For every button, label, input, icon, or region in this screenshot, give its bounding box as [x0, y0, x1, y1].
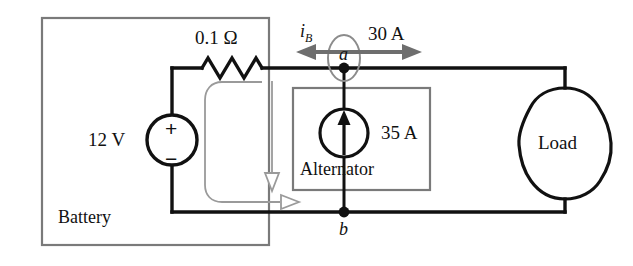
alternator-box-label: Alternator: [300, 160, 374, 178]
voltage-source-label: 12 V: [88, 130, 125, 149]
battery-box-label: Battery: [58, 208, 111, 226]
resistor-0.1-ohm: [202, 58, 262, 78]
circuit-diagram-canvas: 0.1 Ω 12 V + − Battery Alternator 35 A a…: [0, 0, 633, 266]
alternator-current-label: 35 A: [381, 123, 417, 142]
node-a-dot: [339, 63, 350, 74]
node-b-dot: [339, 207, 350, 218]
polarity-minus-sign: −: [165, 148, 177, 169]
load-label: Load: [538, 133, 577, 152]
current-arrow-30a-head-icon: [402, 44, 422, 60]
polarity-plus-sign: +: [165, 118, 177, 139]
current-arrow-ib-head-icon: [296, 44, 316, 60]
node-b-label: b: [339, 220, 348, 238]
node-a-label: a: [339, 45, 348, 63]
branch-current-ib-label: iB: [300, 22, 312, 44]
load-current-label: 30 A: [368, 24, 404, 43]
branch-current-subscript: B: [305, 31, 312, 45]
annotation-down-arrowhead-icon: [265, 173, 279, 191]
annotation-loop-arrowhead-icon: [281, 195, 299, 209]
resistor-label: 0.1 Ω: [195, 28, 238, 47]
